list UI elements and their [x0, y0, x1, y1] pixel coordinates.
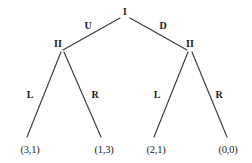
node-label-left-player-two: II: [54, 39, 62, 49]
edge-label-right-subtree-r: R: [215, 90, 222, 100]
tree-edges-canvas: [0, 0, 252, 163]
node-label-right-player-two: II: [186, 39, 194, 49]
edge-label-down: D: [159, 21, 166, 31]
payoff-label: (0,0): [218, 145, 237, 156]
edge-label-left-subtree-r: R: [91, 90, 98, 100]
game-tree-diagram: I II II U D L R L R (3,1) (1,3) (2,1) (0…: [0, 0, 252, 163]
payoff-label: (1,3): [94, 145, 113, 156]
edge-label-left-subtree-l: L: [27, 90, 34, 100]
edge-label-up: U: [84, 21, 91, 31]
payoff-label: (2,1): [146, 145, 165, 156]
node-label-root-player-one: I: [123, 8, 127, 18]
edge-label-right-subtree-l: L: [154, 90, 161, 100]
payoff-label: (3,1): [20, 145, 39, 156]
